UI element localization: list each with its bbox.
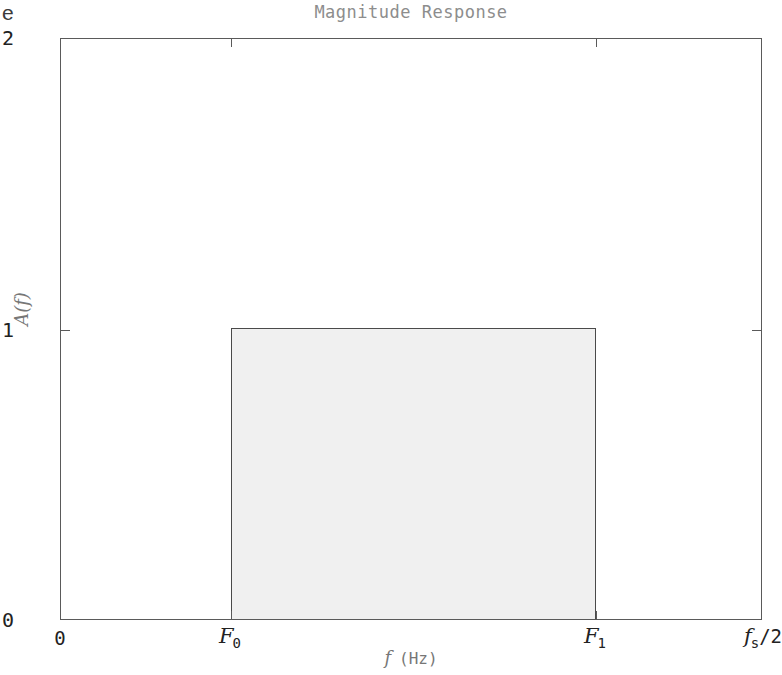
passband-region <box>231 328 596 619</box>
x-tick-label-F0-var: F <box>219 624 234 648</box>
x-tick-label-F0: F0 <box>219 626 241 650</box>
y-tick-label-0: 0 <box>2 610 14 630</box>
x-tick-mark-F0-top <box>231 39 232 47</box>
plot-frame <box>60 38 762 620</box>
x-tick-mark-F1-bottom <box>596 611 597 619</box>
x-tick-label-fs2-suffix: /2 <box>759 625 782 647</box>
figure-root: e Magnitude Response A(f) 2 1 0 0 F0 F1 <box>0 0 782 675</box>
x-tick-mark-F0-bottom <box>231 611 232 619</box>
x-tick-label-F1: F1 <box>584 626 606 650</box>
x-tick-label-0-text: 0 <box>54 627 65 649</box>
chart-title: Magnitude Response <box>60 2 762 22</box>
y-tick-label-2: 2 <box>2 28 14 48</box>
x-tick-label-F1-var: F <box>584 624 599 648</box>
y-tick-label-1: 1 <box>2 320 14 340</box>
x-tick-label-fs2: fs/2 <box>744 626 782 650</box>
x-axis-title-unit: (Hz) <box>399 649 438 668</box>
x-axis-title-var: f <box>384 647 391 668</box>
y-tick-mark-1-right <box>752 330 761 331</box>
x-axis-title: f(Hz) <box>60 648 762 669</box>
x-tick-label-0: 0 <box>54 628 65 648</box>
plot-surface <box>61 39 761 619</box>
panel-letter: e <box>2 2 14 23</box>
y-axis-title: A(f) <box>13 269 31 349</box>
x-tick-mark-F1-top <box>596 39 597 47</box>
y-tick-mark-1-left <box>61 330 70 331</box>
